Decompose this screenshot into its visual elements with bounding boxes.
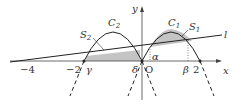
origin-label: O [145, 64, 153, 75]
diagram-canvas: x y O −4 −2 2 γ δ α β C2 C1 S2 S1 l [0, 0, 234, 106]
tick-label-minus-2: −2 [66, 64, 81, 75]
c1-label: C1 [168, 17, 180, 30]
delta-label: δ [132, 64, 138, 75]
tick-label-2: 2 [193, 64, 199, 75]
y-axis-label: y [131, 3, 138, 14]
x-axis-arrow-icon [216, 59, 222, 63]
tick-label-minus-4: −4 [20, 64, 35, 75]
beta-label: β [182, 64, 189, 75]
x-axis-label: x [223, 65, 229, 76]
s1-label: S1 [189, 21, 200, 34]
curve-c1-dashed-right [200, 61, 214, 96]
point-minus-2 [83, 60, 86, 63]
c2-label: C2 [108, 17, 121, 30]
gamma-label: γ [86, 64, 92, 75]
s2-label: S2 [80, 29, 92, 42]
alpha-label: α [152, 51, 159, 62]
point-origin [141, 60, 144, 63]
point-2 [199, 60, 202, 63]
line-l-label: l [224, 29, 227, 40]
y-axis-arrow-icon [140, 6, 144, 12]
